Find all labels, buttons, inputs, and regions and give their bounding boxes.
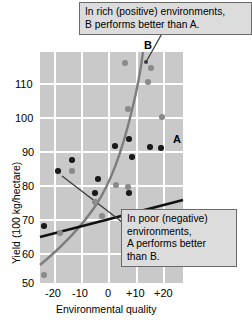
data-point bbox=[92, 190, 98, 196]
data-point bbox=[159, 114, 165, 120]
data-point bbox=[148, 65, 154, 71]
x-tick-plus10: +10 bbox=[126, 287, 145, 299]
x-tick-plus20: +20 bbox=[154, 287, 173, 299]
y-tick-80: 80 bbox=[22, 180, 34, 192]
y-tick-70: 70 bbox=[22, 214, 34, 226]
callout-poor-line4: than B. bbox=[127, 251, 232, 264]
curve-label-b: B bbox=[144, 39, 152, 51]
data-point bbox=[99, 213, 105, 219]
data-point bbox=[55, 168, 61, 174]
y-tick-90: 90 bbox=[22, 146, 34, 158]
data-point bbox=[125, 106, 131, 112]
data-point bbox=[125, 184, 131, 190]
y-axis-title: Yield (100 kg/hectare) bbox=[10, 162, 22, 264]
data-point bbox=[126, 190, 132, 196]
data-point bbox=[41, 223, 47, 229]
data-point bbox=[158, 145, 164, 151]
x-tick--20: -20 bbox=[45, 287, 61, 299]
callout-rich-line2: B performs better than A. bbox=[85, 19, 247, 32]
data-point bbox=[112, 143, 118, 149]
callout-rich-environments: In rich (positive) environments, B perfo… bbox=[79, 2, 252, 35]
data-point bbox=[95, 176, 101, 182]
curve-label-a: A bbox=[173, 133, 181, 145]
callout-rich-line1: In rich (positive) environments, bbox=[85, 6, 247, 19]
y-tick-100: 100 bbox=[15, 112, 33, 124]
data-point bbox=[147, 144, 153, 150]
data-point bbox=[113, 182, 119, 188]
data-point bbox=[57, 230, 63, 236]
rich-callout-leader-dot bbox=[144, 60, 148, 64]
y-tick-50: 50 bbox=[22, 277, 34, 289]
data-point bbox=[129, 154, 135, 160]
x-tick--10: -10 bbox=[72, 287, 88, 299]
callout-poor-environments: In poor (negative) environments, A perfo… bbox=[121, 209, 237, 267]
y-tick-110: 110 bbox=[15, 78, 33, 90]
callout-poor-line1: In poor (negative) bbox=[127, 213, 232, 226]
data-point bbox=[145, 79, 151, 85]
data-point bbox=[126, 136, 132, 142]
data-point bbox=[41, 272, 47, 278]
data-point bbox=[69, 157, 75, 163]
x-tick-0: 0 bbox=[105, 287, 111, 299]
chart-figure: B A 110 100 90 80 70 60 50 -20 -10 0 +10… bbox=[0, 0, 252, 322]
x-axis-title: Environmental quality bbox=[56, 303, 156, 315]
data-point bbox=[122, 60, 128, 66]
callout-poor-line2: environments, bbox=[127, 226, 232, 239]
y-tick-60: 60 bbox=[22, 248, 34, 260]
data-point bbox=[69, 168, 75, 174]
callout-poor-line3: A performs better bbox=[127, 238, 232, 251]
curves-layer bbox=[0, 0, 252, 322]
data-point bbox=[92, 199, 98, 205]
